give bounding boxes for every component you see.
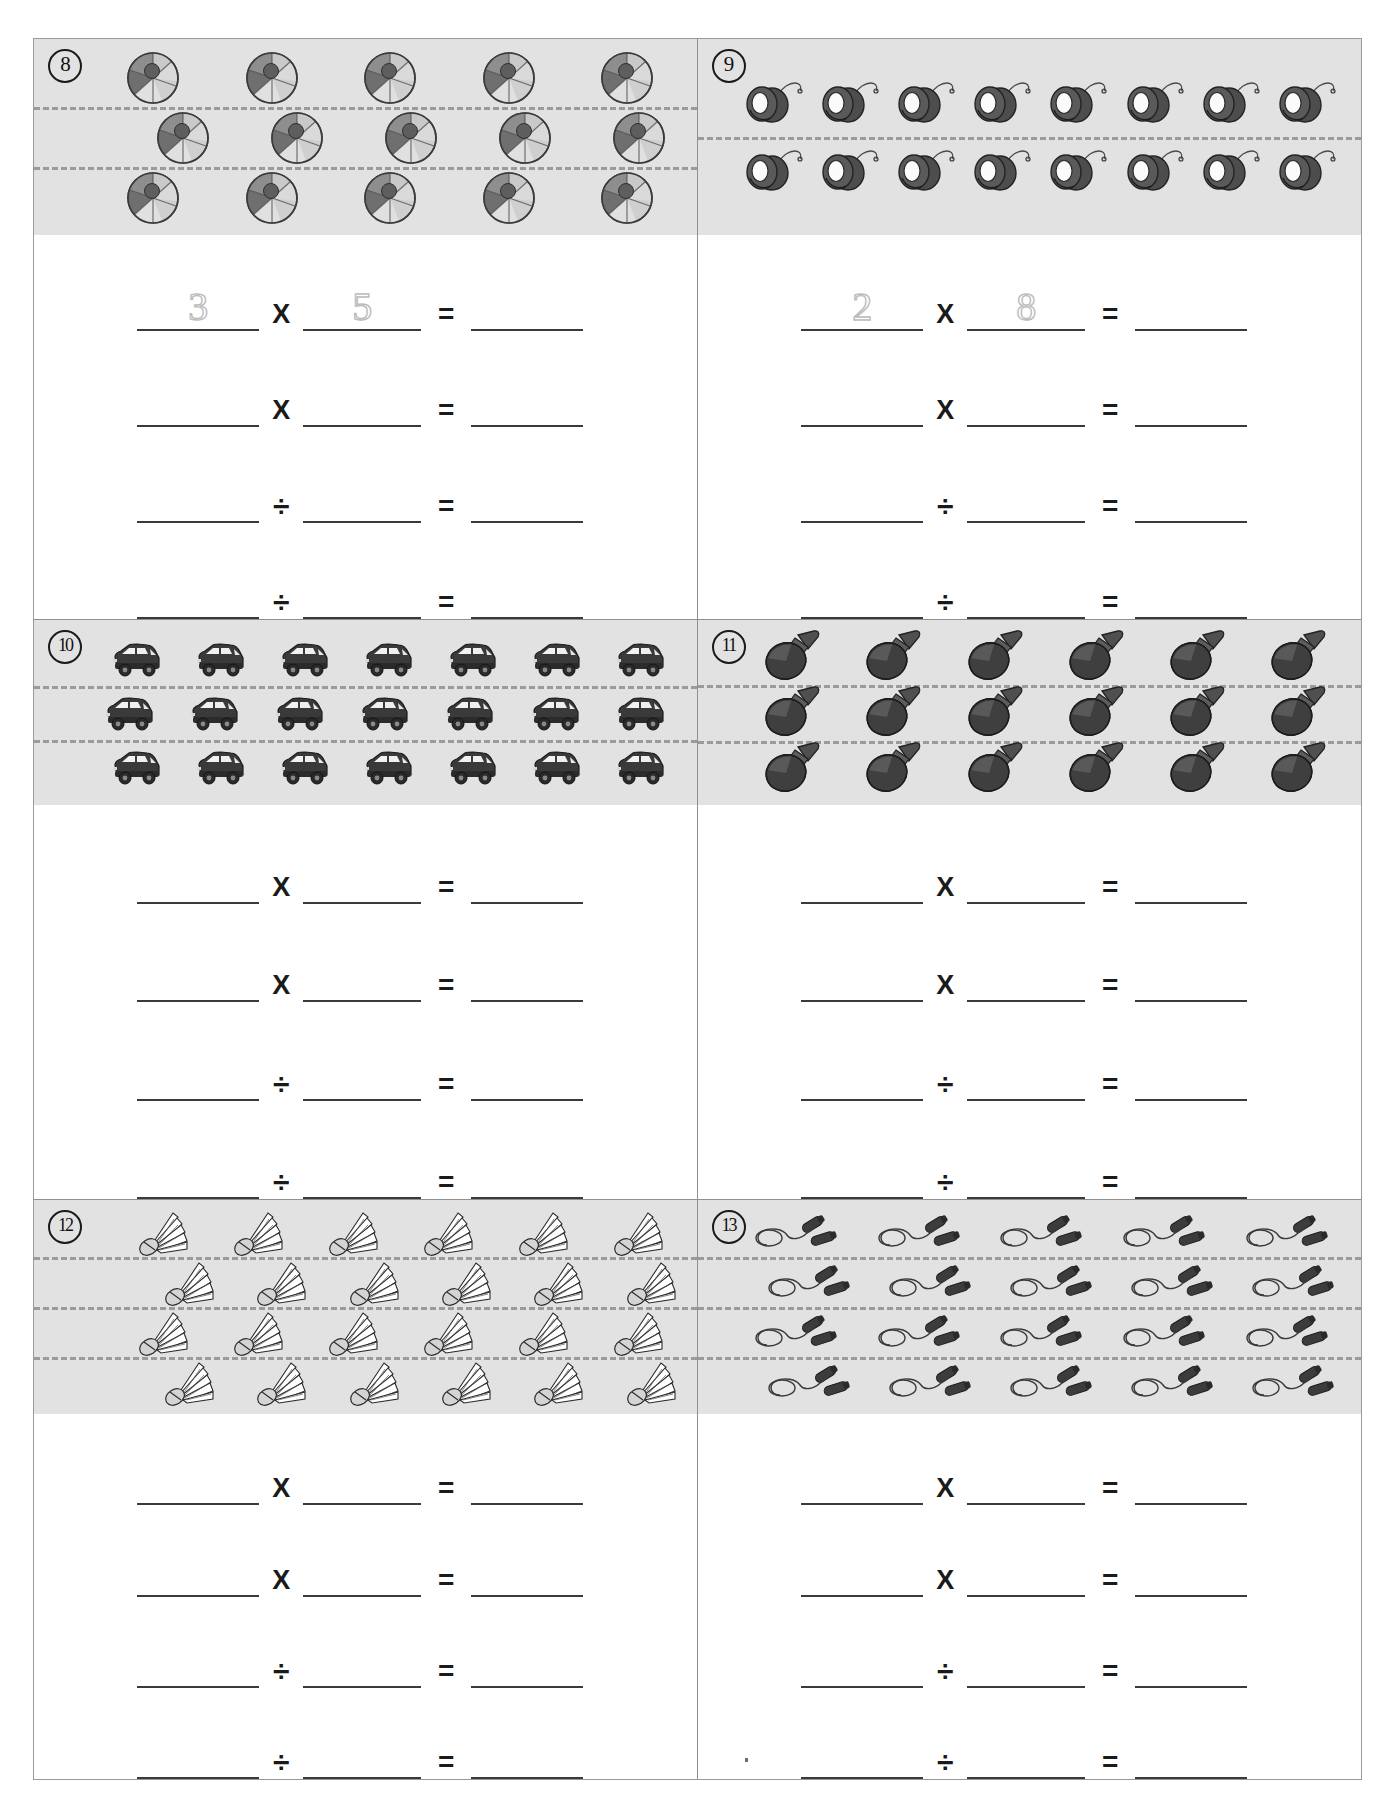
- answer-blank-second[interactable]: [303, 966, 421, 1002]
- answer-blank-result[interactable]: [1135, 1469, 1247, 1505]
- answer-blank-second[interactable]: [303, 583, 421, 619]
- answer-blank-result[interactable]: [1135, 868, 1247, 904]
- jump-rope-icon: [887, 1361, 979, 1403]
- answer-blank-result[interactable]: [1135, 295, 1247, 331]
- problem-number-13: 13: [712, 1210, 746, 1244]
- answer-blank-first[interactable]: [137, 966, 259, 1002]
- answer-blank-result[interactable]: [1135, 583, 1247, 619]
- answer-blank-second[interactable]: [967, 1065, 1085, 1101]
- answer-blank-first[interactable]: [801, 1652, 923, 1688]
- yo-yo-icon: [816, 78, 880, 128]
- answer-blank-first[interactable]: [137, 1743, 259, 1779]
- answer-blank-first[interactable]: [137, 1469, 259, 1505]
- answer-blank-result[interactable]: [1135, 1163, 1247, 1199]
- equation-area-10: X=X=÷=÷=: [34, 805, 697, 1199]
- answer-blank-second[interactable]: [967, 1163, 1085, 1199]
- answer-blank-second[interactable]: [303, 487, 421, 523]
- answer-blank-result[interactable]: [1135, 1561, 1247, 1597]
- answer-blank-second[interactable]: [967, 583, 1085, 619]
- answer-blank-result[interactable]: [471, 295, 583, 331]
- answer-blank-result[interactable]: [471, 391, 583, 427]
- answer-blank-result[interactable]: [471, 966, 583, 1002]
- jump-rope-icon: [1250, 1361, 1342, 1403]
- problem-number-11: 11: [712, 630, 746, 664]
- answer-blank-first[interactable]: [801, 487, 923, 523]
- answer-blank-result[interactable]: [1135, 966, 1247, 1002]
- answer-blank-first[interactable]: [137, 1163, 259, 1199]
- answer-blank-second[interactable]: [967, 966, 1085, 1002]
- answer-blank-second[interactable]: [303, 1163, 421, 1199]
- ping-pong-paddle-icon: [1268, 629, 1328, 685]
- answer-blank-result[interactable]: [1135, 487, 1247, 523]
- answer-blank-first[interactable]: [137, 868, 259, 904]
- traced-digit: 8: [1016, 287, 1036, 327]
- answer-blank-first[interactable]: [801, 1163, 923, 1199]
- yo-yo-icon: [1121, 146, 1185, 196]
- answer-blank-second[interactable]: [967, 487, 1085, 523]
- answer-blank-second[interactable]: 8: [967, 295, 1085, 331]
- picture-band-8: 8: [34, 39, 697, 235]
- answer-blank-result[interactable]: [471, 1469, 583, 1505]
- answer-blank-first[interactable]: [137, 487, 259, 523]
- answer-blank-second[interactable]: [303, 1065, 421, 1101]
- answer-blank-second[interactable]: [303, 1743, 421, 1779]
- answer-blank-second[interactable]: [303, 868, 421, 904]
- answer-blank-result[interactable]: [471, 487, 583, 523]
- multiply-operator: X: [259, 395, 303, 427]
- answer-blank-result[interactable]: [1135, 1065, 1247, 1101]
- shuttlecock-icon: [228, 1307, 286, 1357]
- answer-blank-result[interactable]: [471, 1743, 583, 1779]
- answer-blank-first[interactable]: [801, 1743, 923, 1779]
- answer-blank-first[interactable]: [137, 1652, 259, 1688]
- answer-blank-result[interactable]: [1135, 1652, 1247, 1688]
- answer-blank-second[interactable]: [967, 1743, 1085, 1779]
- answer-blank-result[interactable]: [471, 1065, 583, 1101]
- answer-blank-second[interactable]: [967, 1652, 1085, 1688]
- answer-blank-second[interactable]: [967, 868, 1085, 904]
- answer-blank-result[interactable]: [1135, 1743, 1247, 1779]
- answer-blank-first[interactable]: [801, 583, 923, 619]
- jump-rope-icon: [876, 1211, 968, 1253]
- problem-cell-10: 10: [34, 619, 698, 1199]
- answer-blank-first[interactable]: [801, 966, 923, 1002]
- answer-blank-first[interactable]: [137, 1561, 259, 1597]
- answer-blank-second[interactable]: [303, 1652, 421, 1688]
- answer-blank-first[interactable]: 2: [801, 295, 923, 331]
- answer-blank-first[interactable]: [801, 868, 923, 904]
- beach-ball-icon: [598, 48, 656, 106]
- answer-blank-first[interactable]: [801, 1561, 923, 1597]
- answer-blank-first[interactable]: 3: [137, 295, 259, 331]
- car-icon: [275, 639, 333, 679]
- answer-blank-result[interactable]: [1135, 391, 1247, 427]
- answer-blank-result[interactable]: [471, 868, 583, 904]
- answer-blank-first[interactable]: [801, 1065, 923, 1101]
- answer-blank-result[interactable]: [471, 583, 583, 619]
- answer-blank-first[interactable]: [801, 391, 923, 427]
- ping-pong-paddle-icon: [762, 629, 822, 685]
- answer-blank-second[interactable]: [967, 1561, 1085, 1597]
- answer-blank-first[interactable]: [137, 1065, 259, 1101]
- jump-rope-icon: [876, 1311, 968, 1353]
- answer-blank-second[interactable]: [303, 1561, 421, 1597]
- shuttlecock-icon: [608, 1207, 666, 1257]
- shuttlecock-icon: [344, 1357, 402, 1407]
- answer-blank-result[interactable]: [471, 1163, 583, 1199]
- shuttlecock-icon: [133, 1307, 191, 1357]
- beach-ball-icon: [154, 108, 212, 166]
- answer-blank-first[interactable]: [137, 391, 259, 427]
- answer-blank-result[interactable]: [471, 1561, 583, 1597]
- object-array-9: [698, 39, 1362, 235]
- jump-rope-icon: [1008, 1361, 1100, 1403]
- answer-blank-second[interactable]: 5: [303, 295, 421, 331]
- answer-blank-first[interactable]: [137, 583, 259, 619]
- equals-operator: =: [421, 1565, 471, 1597]
- answer-blank-second[interactable]: [967, 1469, 1085, 1505]
- yo-yo-icon: [1197, 146, 1261, 196]
- answer-blank-second[interactable]: [967, 391, 1085, 427]
- equals-operator: =: [421, 299, 471, 331]
- answer-blank-first[interactable]: [801, 1469, 923, 1505]
- answer-blank-second[interactable]: [303, 1469, 421, 1505]
- object-row: [34, 686, 697, 740]
- answer-blank-second[interactable]: [303, 391, 421, 427]
- answer-blank-result[interactable]: [471, 1652, 583, 1688]
